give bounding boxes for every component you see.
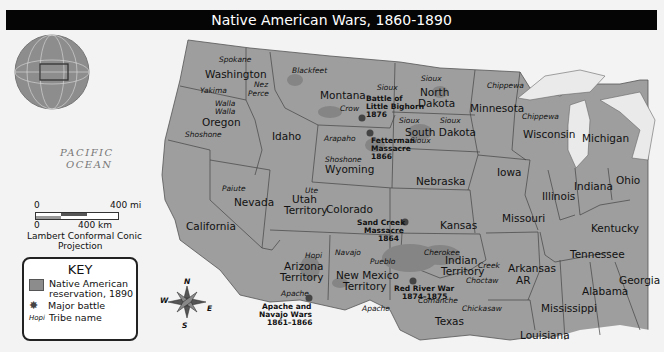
tribe-ute: Ute <box>305 186 318 195</box>
tribe-shoshone-or: Shoshone <box>185 130 222 139</box>
tribe-navajo: Navajo <box>335 248 361 257</box>
tribe-creek: Creek <box>478 261 501 270</box>
state-mississippi: Mississippi <box>541 302 597 314</box>
key-title: KEY <box>24 262 136 277</box>
tribe-chickasaw: Chickasaw <box>462 304 503 313</box>
key-row-battle: ✸ Major battle <box>29 301 136 311</box>
compass-s: S <box>182 321 187 330</box>
key-row-tribe: Hopi Tribe name <box>29 313 136 323</box>
map-key: KEY Native Americanreservation, 1890 ✸ M… <box>22 257 138 341</box>
ocean-label-1: PACIFIC <box>59 147 114 158</box>
tribe-apache-az: Apache <box>280 289 309 298</box>
tribe-crow: Crow <box>340 104 360 113</box>
state-michigan: Michigan <box>582 132 629 144</box>
tribe-apache-nm: Apache <box>361 304 390 313</box>
tribe-sioux-nd: Sioux <box>421 74 442 83</box>
battle-redriver-2: 1874–1875 <box>402 292 448 301</box>
compass-w: W <box>160 296 169 305</box>
state-california: California <box>186 220 236 232</box>
tribe-spokane: Spokane <box>219 55 252 64</box>
state-oregon: Oregon <box>202 116 241 128</box>
tribe-choctaw: Choctaw <box>466 276 499 285</box>
state-arkansas: Arkansas <box>508 262 556 274</box>
state-colorado: Colorado <box>326 203 373 215</box>
state-wyoming: Wyoming <box>325 163 374 175</box>
scale-mi-zero: 0 <box>34 200 40 210</box>
tribe-nez-1: Nez <box>254 80 269 89</box>
state-illinois: Illinois <box>542 190 575 202</box>
tribe-paiute: Paiute <box>222 184 246 193</box>
state-georgia: Georgia <box>619 274 660 286</box>
tribe-nez-2: Perce <box>248 89 269 98</box>
tribe-shoshone-wy: Shoshone <box>325 155 362 164</box>
compass-rose: N S E W <box>160 277 213 330</box>
state-arizona-2: Territory <box>279 271 324 283</box>
state-indiana: Indiana <box>574 180 613 192</box>
state-newmexico-2: Territory <box>342 280 387 292</box>
tribe-chippewa-mn: Chippewa <box>487 81 524 90</box>
state-iowa: Iowa <box>497 166 522 178</box>
tribe-cherokee: Cherokee <box>424 248 460 257</box>
state-minnesota: Minnesota <box>470 102 524 114</box>
state-louisiana: Louisiana <box>520 329 570 341</box>
scale-km-label: 400 km <box>78 220 112 230</box>
scale-mi-label: 400 mi <box>110 200 141 210</box>
battle-fetterman-3: 1866 <box>371 152 392 161</box>
state-utah-2: Territory <box>283 204 328 216</box>
projection-line-2: Projection <box>58 241 170 251</box>
tribe-blackfeet: Blackfeet <box>292 66 328 75</box>
ocean-label-2: OCEAN <box>66 159 113 170</box>
key-reservation-2: reservation, 1890 <box>49 288 133 299</box>
tribe-walla-2: Walla <box>215 107 236 116</box>
state-nevada: Nevada <box>234 196 274 208</box>
state-ar: AR <box>516 274 530 286</box>
tribe-hopi: Hopi <box>305 251 323 260</box>
state-alabama: Alabama <box>582 285 628 297</box>
compass-e: E <box>207 304 213 313</box>
key-battle-label: Major battle <box>48 301 105 311</box>
state-kansas: Kansas <box>440 219 477 231</box>
tribe-chippewa-wi: Chippewa <box>522 112 559 121</box>
state-idaho: Idaho <box>272 130 301 142</box>
battle-apache-3: 1861–1866 <box>267 318 313 327</box>
tribe-arapaho: Arapaho <box>323 134 356 143</box>
state-missouri: Missouri <box>502 212 545 224</box>
key-tribe-label: Tribe name <box>49 313 102 323</box>
projection-line-1: Lambert Conformal Conic <box>27 231 170 241</box>
state-washington: Washington <box>205 68 267 80</box>
state-nebraska: Nebraska <box>416 175 466 187</box>
battle-bighorn-3: 1876 <box>366 110 387 119</box>
key-tribe-sample: Hopi <box>29 313 45 323</box>
tribe-sioux-sd-1: Sioux <box>399 116 420 125</box>
state-wisconsin: Wisconsin <box>523 128 575 140</box>
battle-sandcreek-3: 1864 <box>378 234 399 243</box>
map-title: Native American Wars, 1860-1890 <box>6 10 657 30</box>
tribe-sioux-mt: Sioux <box>377 83 398 92</box>
battle-icon <box>306 295 313 302</box>
state-ohio: Ohio <box>616 174 640 186</box>
scale-km-zero: 0 <box>34 220 40 230</box>
battle-icon: ✸ <box>29 301 42 311</box>
state-tennessee: Tennessee <box>569 248 625 260</box>
tribe-pueblo: Pueblo <box>370 257 396 266</box>
tribe-sioux-sd-2: Sioux <box>440 116 461 125</box>
state-montana: Montana <box>320 89 366 101</box>
state-texas: Texas <box>434 315 464 327</box>
state-kentucky: Kentucky <box>591 222 639 234</box>
locator-globe <box>15 35 89 109</box>
compass-n: N <box>184 277 191 286</box>
scale-bar: 0 400 mi 0 400 km Lambert Conformal Coni… <box>30 200 170 251</box>
key-row-reservation: Native Americanreservation, 1890 <box>29 279 136 299</box>
reservation-swatch <box>29 279 44 291</box>
battle-icon <box>359 115 366 122</box>
tribe-yakima: Yakima <box>200 86 227 95</box>
